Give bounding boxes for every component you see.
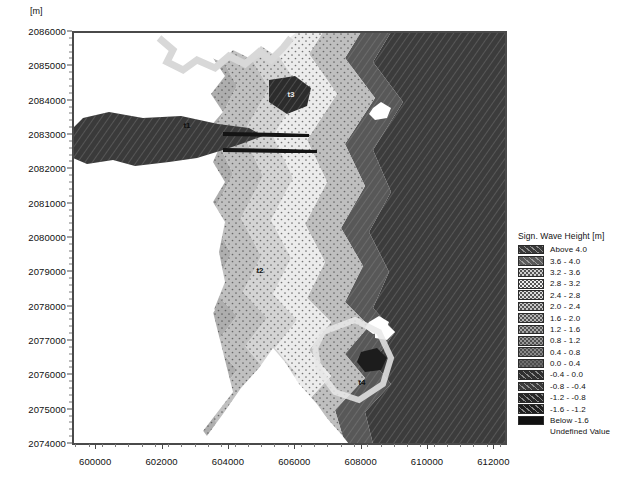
legend-swatch [518, 382, 544, 392]
y-axis-tick-label: 2082000 [28, 163, 66, 174]
legend-entry: 2.0 - 2.4 [518, 301, 640, 312]
legend-entry: 1.6 - 2.0 [518, 312, 640, 323]
y-axis-tick-label: 2085000 [28, 60, 66, 71]
station-label-t1: t1 [183, 121, 190, 130]
y-axis: 2086000208500020840002083000208200020810… [0, 31, 72, 443]
x-axis-tick-label: 600000 [79, 456, 111, 467]
legend-entry: 1.2 - 1.6 [518, 324, 640, 335]
legend-entry-label: 2.0 - 2.4 [550, 302, 580, 311]
y-axis-tick-label: 2074000 [28, 438, 66, 449]
x-axis-minor-tick [142, 444, 143, 447]
legend: Sign. Wave Height [m] Above 4.03.6 - 4.0… [518, 231, 640, 438]
legend-entry-label: 0.8 - 1.2 [550, 336, 580, 345]
legend-entry-label: 3.2 - 3.6 [550, 268, 580, 277]
legend-entry: Below -1.6 [518, 415, 640, 426]
x-axis-minor-tick [195, 444, 196, 447]
legend-swatch [518, 336, 544, 346]
y-axis-tick-label: 2086000 [28, 26, 66, 37]
legend-swatch [518, 325, 544, 335]
x-axis-tick-mark [294, 444, 295, 449]
x-axis-minor-tick [128, 444, 129, 447]
x-axis-minor-tick [168, 444, 169, 447]
plot-area: t1 t2 t3 t4 [72, 31, 507, 445]
y-axis-tick-label: 2083000 [28, 129, 66, 140]
legend-entry-label: -1.6 - -1.2 [550, 405, 586, 414]
legend-entry-label: Below -1.6 [550, 416, 589, 425]
legend-swatch [518, 359, 544, 369]
x-axis-minor-tick [420, 444, 421, 447]
legend-entry-label: Undefined Value [550, 427, 610, 436]
legend-entry: -1.6 - -1.2 [518, 403, 640, 414]
legend-swatch [518, 279, 544, 289]
x-axis-minor-tick [261, 444, 262, 447]
legend-entry: -0.4 - 0.0 [518, 369, 640, 380]
legend-entry-label: -0.4 - 0.0 [550, 370, 583, 379]
x-axis-minor-tick [394, 444, 395, 447]
x-axis-minor-tick [75, 444, 76, 447]
x-axis-minor-tick [181, 444, 182, 447]
legend-entry-label: -1.2 - -0.8 [550, 393, 586, 402]
x-axis-minor-tick [327, 444, 328, 447]
x-axis-minor-tick [460, 444, 461, 447]
y-axis-tick-label: 2076000 [28, 369, 66, 380]
x-axis-tick-mark [361, 444, 362, 449]
legend-swatch [518, 302, 544, 312]
x-axis-tick-label: 604000 [212, 456, 244, 467]
legend-swatch [518, 370, 544, 380]
legend-entry: 0.4 - 0.8 [518, 347, 640, 358]
legend-swatch [518, 256, 544, 266]
legend-swatch [518, 290, 544, 300]
legend-swatch [518, 427, 544, 437]
x-axis-minor-tick [221, 444, 222, 447]
legend-entry-label: 0.0 - 0.4 [550, 359, 580, 368]
legend-title: Sign. Wave Height [m] [518, 231, 640, 241]
y-axis-tick-label: 2077000 [28, 335, 66, 346]
legend-entry: 0.0 - 0.4 [518, 358, 640, 369]
x-axis-tick-mark [427, 444, 428, 449]
y-axis-tick-label: 2079000 [28, 266, 66, 277]
x-axis: 6000006020006040006060006080006100006120… [72, 444, 505, 484]
legend-entry-label: 1.2 - 1.6 [550, 325, 580, 334]
x-axis-minor-tick [115, 444, 116, 447]
x-axis-minor-tick [248, 444, 249, 447]
legend-entry: Undefined Value [518, 426, 640, 437]
x-axis-tick-label: 602000 [145, 456, 177, 467]
x-axis-minor-tick [381, 444, 382, 447]
legend-entry: 2.8 - 3.2 [518, 278, 640, 289]
station-label-t2: t2 [256, 266, 263, 275]
x-axis-minor-tick [473, 444, 474, 447]
legend-entry-label: -0.8 - -0.4 [550, 382, 586, 391]
x-axis-minor-tick [354, 444, 355, 447]
wave-height-map-figure: [m] 208600020850002084000208300020820002… [0, 0, 640, 485]
x-axis-minor-tick [89, 444, 90, 447]
x-axis-tick-mark [95, 444, 96, 449]
legend-entry-label: 3.6 - 4.0 [550, 257, 580, 266]
y-axis-tick-label: 2081000 [28, 197, 66, 208]
legend-entry: 2.4 - 2.8 [518, 290, 640, 301]
x-axis-tick-mark [162, 444, 163, 449]
legend-entry-list: Above 4.03.6 - 4.03.2 - 3.62.8 - 3.22.4 … [518, 244, 640, 438]
x-axis-minor-tick [301, 444, 302, 447]
x-axis-minor-tick [500, 444, 501, 447]
x-axis-minor-tick [274, 444, 275, 447]
x-axis-tick-label: 612000 [477, 456, 509, 467]
y-axis-tick-label: 2075000 [28, 403, 66, 414]
legend-entry-label: 2.8 - 3.2 [550, 279, 580, 288]
legend-entry: 3.2 - 3.6 [518, 267, 640, 278]
legend-swatch [518, 404, 544, 414]
legend-entry-label: 0.4 - 0.8 [550, 348, 580, 357]
y-axis-unit-label: [m] [30, 6, 43, 16]
x-axis-minor-tick [487, 444, 488, 447]
x-axis-minor-tick [288, 444, 289, 447]
x-axis-tick-label: 610000 [411, 456, 443, 467]
x-axis-tick-label: 608000 [345, 456, 377, 467]
map-canvas: t1 t2 t3 t4 [73, 32, 506, 444]
x-axis-minor-tick [367, 444, 368, 447]
legend-entry: -0.8 - -0.4 [518, 381, 640, 392]
legend-swatch [518, 347, 544, 357]
legend-entry: Above 4.0 [518, 244, 640, 255]
legend-swatch [518, 393, 544, 403]
y-axis-tick-label: 2078000 [28, 300, 66, 311]
x-axis-minor-tick [341, 444, 342, 447]
legend-entry: 0.8 - 1.2 [518, 335, 640, 346]
